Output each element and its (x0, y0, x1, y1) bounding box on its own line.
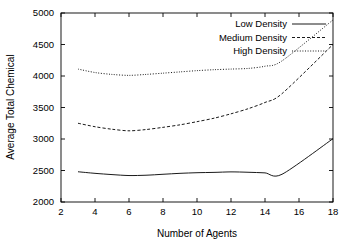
chart-figure: 2000250030003500400045005000 24681012141… (0, 0, 351, 246)
data-series-group (78, 20, 333, 176)
x-tick-label: 18 (328, 206, 339, 217)
y-tick-label: 4000 (33, 70, 54, 81)
x-tick-label: 14 (260, 206, 271, 217)
x-tick-label: 6 (126, 206, 131, 217)
x-tick-label: 4 (92, 206, 97, 217)
x-tick-label: 16 (294, 206, 305, 217)
y-tick-label: 2000 (33, 196, 54, 207)
y-tick-label: 5000 (33, 7, 54, 18)
y-tick-label: 4500 (33, 39, 54, 50)
line-chart: 2000250030003500400045005000 24681012141… (0, 0, 351, 246)
y-tick-label: 3000 (33, 133, 54, 144)
x-axis-tick-labels: 24681012141618 (58, 206, 338, 217)
series-line-medium-density (78, 45, 333, 131)
legend-label-low-density: Low Density (235, 18, 287, 29)
x-tick-label: 12 (226, 206, 237, 217)
y-axis-tick-labels: 2000250030003500400045005000 (33, 7, 54, 207)
y-axis-title: Average Total Chemical (5, 54, 16, 159)
series-line-high-density (78, 20, 333, 75)
legend-label-medium-density: Medium Density (219, 32, 287, 43)
legend-label-high-density: High Density (233, 45, 287, 56)
series-line-low-density (78, 139, 333, 176)
x-tick-label: 10 (192, 206, 203, 217)
x-axis-title: Number of Agents (157, 228, 237, 239)
x-tick-label: 2 (58, 206, 63, 217)
x-tick-label: 8 (160, 206, 165, 217)
y-tick-label: 3500 (33, 102, 54, 113)
chart-legend: Low DensityMedium DensityHigh Density (219, 18, 326, 56)
y-tick-label: 2500 (33, 165, 54, 176)
